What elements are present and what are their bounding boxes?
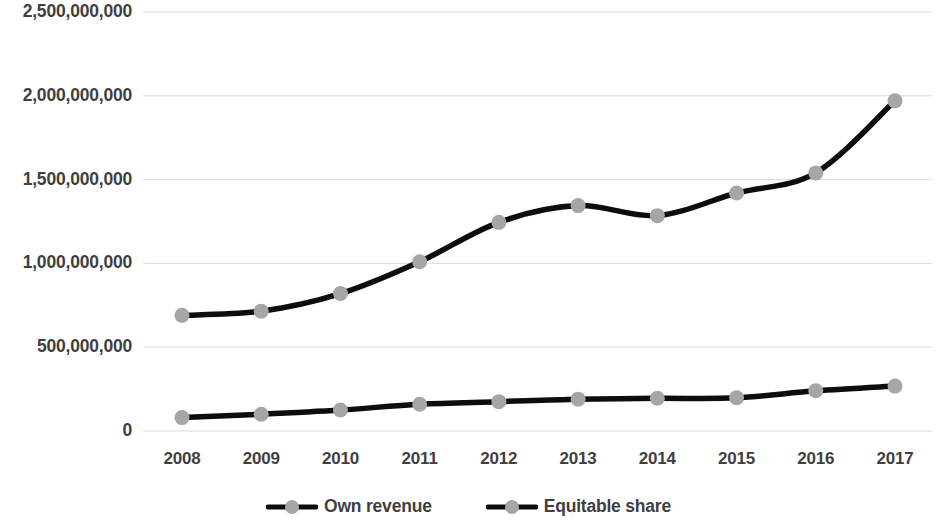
series-lines [182, 101, 895, 418]
data-point-marker [571, 392, 586, 407]
data-point-marker [491, 215, 506, 230]
series-markers [175, 93, 903, 425]
data-point-marker [888, 93, 903, 108]
legend-marker-icon [486, 498, 538, 516]
legend-label: Equitable share [544, 498, 671, 516]
data-point-marker [412, 254, 427, 269]
data-point-marker [808, 165, 823, 180]
data-point-marker [175, 410, 190, 425]
x-axis: 2008200920102011201220132014201520162017 [0, 450, 937, 478]
series-line-equitable-share [182, 101, 895, 316]
data-point-marker [650, 391, 665, 406]
data-point-marker [888, 379, 903, 394]
data-point-marker [254, 304, 269, 319]
x-tick-label: 2014 [639, 450, 676, 467]
series-line-own-revenue [182, 386, 895, 418]
data-point-marker [175, 308, 190, 323]
x-tick-label: 2009 [243, 450, 280, 467]
x-tick-label: 2012 [480, 450, 517, 467]
x-tick-label: 2013 [560, 450, 597, 467]
legend-entry-equitable-share[interactable]: Equitable share [486, 498, 671, 516]
x-tick-label: 2010 [322, 450, 359, 467]
chart-legend: Own revenueEquitable share [0, 492, 937, 522]
gridlines [143, 12, 932, 431]
x-tick-label: 2015 [718, 450, 755, 467]
plot-area [0, 0, 937, 526]
data-point-marker [333, 286, 348, 301]
data-point-marker [729, 186, 744, 201]
legend-marker-icon [266, 498, 318, 516]
data-point-marker [254, 407, 269, 422]
data-point-marker [650, 208, 665, 223]
x-tick-label: 2016 [797, 450, 834, 467]
x-tick-label: 2017 [876, 450, 913, 467]
x-tick-label: 2011 [402, 450, 438, 467]
data-point-marker [333, 403, 348, 418]
x-tick-label: 2008 [163, 450, 200, 467]
data-point-marker [729, 390, 744, 405]
line-chart: 0500,000,0001,000,000,0001,500,000,0002,… [0, 0, 937, 526]
data-point-marker [808, 383, 823, 398]
legend-label: Own revenue [324, 498, 432, 516]
data-point-marker [412, 397, 427, 412]
legend-entry-own-revenue[interactable]: Own revenue [266, 498, 432, 516]
data-point-marker [571, 198, 586, 213]
data-point-marker [491, 394, 506, 409]
